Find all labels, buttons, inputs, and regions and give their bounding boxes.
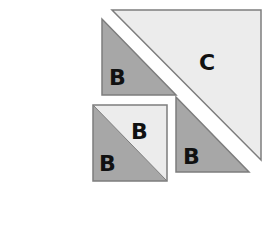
quilt-block-diagram: C B B B B bbox=[0, 0, 272, 246]
label-b-square-upper: B bbox=[131, 119, 148, 144]
label-c: C bbox=[199, 50, 215, 75]
square-block: B B bbox=[93, 105, 167, 181]
label-b-right: B bbox=[183, 144, 200, 169]
label-b-square-lower: B bbox=[99, 151, 116, 176]
label-b-top-left: B bbox=[109, 65, 126, 90]
